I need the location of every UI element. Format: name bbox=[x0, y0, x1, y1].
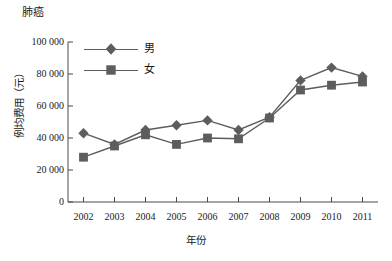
data-point-marker bbox=[358, 78, 367, 87]
data-point-marker bbox=[110, 142, 119, 151]
lung-cancer-cost-line-chart: 肺癌 例均费用（元） 020 00040 00060 00080 000100 … bbox=[0, 0, 392, 261]
series-line bbox=[84, 82, 363, 157]
legend-label-male: 男 bbox=[144, 41, 155, 56]
square-marker-icon bbox=[104, 63, 118, 77]
data-point-marker bbox=[202, 115, 212, 125]
diamond-marker-icon bbox=[104, 42, 118, 56]
series-female bbox=[79, 78, 367, 162]
data-point-marker bbox=[296, 86, 305, 95]
data-point-marker bbox=[233, 125, 243, 135]
plot-area bbox=[0, 0, 392, 261]
data-point-marker bbox=[234, 134, 243, 143]
data-point-marker bbox=[327, 81, 336, 90]
data-point-marker bbox=[78, 128, 88, 138]
legend-item-male: 男 bbox=[84, 39, 176, 60]
data-point-marker bbox=[265, 114, 274, 123]
data-point-marker bbox=[203, 134, 212, 143]
chart-legend: 男 女 bbox=[84, 39, 176, 81]
legend-item-female: 女 bbox=[84, 60, 176, 81]
data-point-marker bbox=[79, 153, 88, 162]
data-point-marker bbox=[141, 130, 150, 139]
data-point-marker bbox=[172, 140, 181, 149]
data-point-marker bbox=[171, 120, 181, 130]
legend-label-female: 女 bbox=[144, 62, 155, 77]
data-point-marker bbox=[326, 62, 336, 72]
